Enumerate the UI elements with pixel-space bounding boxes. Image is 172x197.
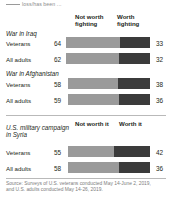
row-right-value-afghanistan-veterans: 38 (156, 81, 163, 88)
row-right-value-iraq-veterans: 33 (156, 40, 163, 47)
section-divider (6, 115, 166, 116)
source-note: Source: Surveys of U.S. veterans conduct… (6, 181, 168, 193)
table-row: All adults 59 36 (6, 94, 166, 106)
header-not-worth-fighting-line2: fighting (75, 21, 103, 28)
header-worth-fighting-line1: Worth (117, 13, 135, 20)
row-right-value-syria-all-adults: 36 (156, 165, 163, 172)
bar-syria-veterans (68, 146, 150, 157)
bar-segment-not-worth (66, 37, 120, 48)
bar-segment-worth (119, 94, 150, 105)
top-rule (6, 4, 20, 5)
row-right-value-iraq-all-adults: 32 (156, 56, 163, 63)
table-row: Veterans 64 33 (6, 37, 166, 49)
bar-segment-not-worth (68, 78, 118, 89)
row-label-all-adults-syria: All adults (6, 165, 31, 172)
header-not-worth-fighting: Not worth fighting (75, 14, 103, 28)
group-title-syria-line1: U.S. military campaign (6, 124, 69, 131)
header-worth-fighting-line2: fighting (117, 21, 139, 28)
header-not-worth-fighting-line1: Not worth (75, 13, 103, 20)
header-not-worth-it-text: Not worth it (75, 120, 109, 127)
top-fragment-text: loss/has been ... (22, 1, 61, 7)
bar-segment-worth (114, 146, 150, 157)
row-left-value-afghanistan-all-adults: 59 (49, 97, 61, 104)
bar-segment-worth (118, 78, 150, 89)
chart-sheet: loss/has been ... Not worth fighting Wor… (0, 0, 172, 197)
group-title-afghanistan: War in Afghanistan (6, 70, 59, 77)
bar-segment-not-worth (68, 94, 119, 105)
row-left-value-afghanistan-veterans: 58 (49, 81, 61, 88)
bar-iraq-all-adults (66, 53, 150, 64)
table-row: All adults 58 36 (6, 162, 166, 174)
row-label-veterans-iraq: Veterans (6, 40, 30, 47)
row-label-veterans-syria: Veterans (6, 149, 30, 156)
row-left-value-iraq-veterans: 64 (49, 40, 61, 47)
row-left-value-iraq-all-adults: 62 (49, 56, 61, 63)
row-left-value-syria-veterans: 55 (49, 149, 61, 156)
bar-segment-worth (120, 37, 150, 48)
truncated-top-text: loss/has been ... (6, 1, 156, 9)
bar-segment-not-worth (66, 53, 119, 64)
bar-segment-not-worth (68, 162, 119, 173)
source-line-2: and U.S. adults conducted May 14-26, 201… (6, 187, 168, 193)
bar-afghanistan-all-adults (68, 94, 150, 105)
bar-segment-worth (119, 162, 150, 173)
table-row: Veterans 55 42 (6, 146, 166, 158)
bar-afghanistan-veterans (68, 78, 150, 89)
header-worth-it-text: Worth it (119, 120, 142, 127)
row-left-value-syria-all-adults: 58 (49, 165, 61, 172)
header-worth-fighting: Worth fighting (117, 14, 139, 28)
row-label-all-adults-iraq: All adults (6, 56, 31, 63)
bar-segment-worth (119, 53, 150, 64)
header-worth-it: Worth it (119, 121, 142, 128)
table-row: All adults 62 32 (6, 53, 166, 65)
bar-iraq-veterans (66, 37, 150, 48)
bar-segment-not-worth (68, 146, 114, 157)
row-label-veterans-afghanistan: Veterans (6, 81, 30, 88)
group-title-syria: U.S. military campaign in Syria (6, 124, 72, 139)
group-title-syria-line2: in Syria (6, 131, 72, 138)
row-right-value-afghanistan-all-adults: 36 (156, 97, 163, 104)
bar-syria-all-adults (68, 162, 150, 173)
source-divider (6, 178, 166, 179)
row-label-all-adults-afghanistan: All adults (6, 97, 31, 104)
header-not-worth-it: Not worth it (75, 121, 109, 128)
row-right-value-syria-veterans: 42 (156, 149, 163, 156)
table-row: Veterans 58 38 (6, 78, 166, 90)
